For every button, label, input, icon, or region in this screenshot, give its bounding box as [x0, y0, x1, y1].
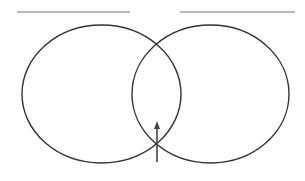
right-set-ellipse — [132, 25, 289, 163]
venn-svg — [0, 0, 305, 181]
venn-diagram — [0, 0, 305, 181]
